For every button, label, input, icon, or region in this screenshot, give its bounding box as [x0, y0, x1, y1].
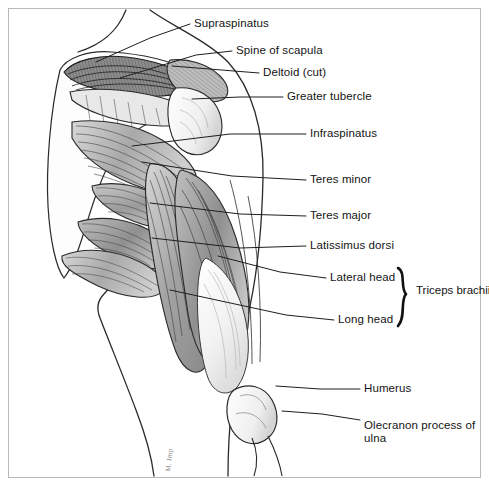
olecranon-process	[227, 386, 277, 476]
label-lateral-head: Lateral head	[330, 271, 395, 284]
leader-olecranon	[282, 411, 360, 420]
triceps-brace	[398, 268, 406, 326]
anatomy-figure: SupraspinatusSpine of scapulaDeltoid (cu…	[0, 0, 489, 486]
label-humerus: Humerus	[364, 382, 411, 395]
label-deltoid-cut: Deltoid (cut)	[263, 66, 326, 79]
label-olecranon: Olecranon process of ulna	[364, 419, 484, 445]
label-teres-minor: Teres minor	[310, 173, 371, 186]
label-infraspinatus: Infraspinatus	[310, 127, 377, 140]
illustration-canvas	[0, 0, 489, 486]
label-supraspinatus: Supraspinatus	[194, 17, 269, 30]
label-greater-tubercle: Greater tubercle	[287, 90, 372, 103]
leader-humerus	[276, 386, 360, 389]
label-triceps-brachii: Triceps brachii	[416, 284, 489, 296]
label-long-head: Long head	[338, 313, 393, 326]
label-latissimus-dorsi: Latissimus dorsi	[310, 239, 394, 252]
forearm-contour	[268, 436, 282, 476]
label-teres-major: Teres major	[310, 209, 371, 222]
label-spine-of-scapula: Spine of scapula	[236, 44, 323, 57]
